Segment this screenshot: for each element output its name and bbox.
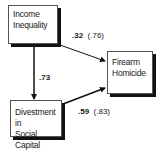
edge-label-income-homicide: .32 (.76) [72,31,104,40]
node-label-line: Social Capital [15,129,57,150]
node-divestment-social-capital: Divestment in Social Capital [10,100,62,137]
path-coefficient-paren: (.76) [88,31,104,40]
edge-label-divestment-homicide: .59 (.83) [78,107,110,116]
node-firearm-homicide: Firearm Homicide [107,51,153,94]
path-coefficient: .59 [78,107,89,116]
arrow-divestment-to-homicide [63,88,105,104]
node-label-line: Divestment in [15,107,57,129]
arrow-income-to-homicide [60,45,105,61]
node-label-line: Firearm [112,57,148,68]
node-label-line: Inequality [13,20,53,31]
path-coefficient-paren: (.83) [94,107,110,116]
path-coefficient: .73 [39,73,50,82]
node-label-line: Income [13,9,53,20]
node-income-inequality: Income Inequality [8,5,58,44]
edge-label-income-divestment: .73 [39,73,50,82]
path-coefficient: .32 [72,31,83,40]
node-label-line: Homicide [112,68,148,79]
